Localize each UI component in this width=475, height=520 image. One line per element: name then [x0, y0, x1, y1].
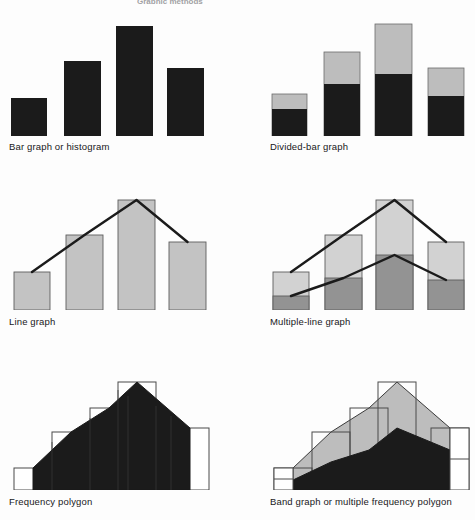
caption-band-graph: Band graph or multiple frequency polygon: [270, 496, 452, 507]
caption-divided-bar-graph: Divided-bar graph: [270, 141, 348, 152]
bar-graph-figure: [0, 8, 237, 136]
line-graph-bar-4: [169, 242, 206, 310]
bar-4: [167, 68, 204, 136]
divided-bar-graph-figure: [265, 8, 475, 136]
panel-band-graph: Band graph or multiple frequency polygon: [265, 368, 475, 518]
stacked-bar-4-lower: [428, 96, 464, 136]
ml-bar-1-lower: [273, 296, 309, 310]
caption-bar-graph: Bar graph or histogram: [9, 141, 109, 152]
panel-frequency-polygon: Frequency polygon: [0, 368, 237, 518]
ml-bar-4-lower: [428, 280, 464, 310]
line-graph-figure: [0, 188, 237, 310]
line-graph-bar-2: [66, 235, 103, 310]
frequency-polygon-figure: [0, 368, 237, 490]
stacked-bar-2-lower: [324, 84, 360, 136]
line-series-total: [291, 200, 446, 272]
panel-bar-graph: Bar graph or histogram: [0, 8, 237, 158]
panel-multiple-line-graph: Multiple-line graph: [265, 188, 475, 338]
panel-divided-bar-graph: Divided-bar graph: [265, 8, 475, 158]
caption-multiple-line-graph: Multiple-line graph: [270, 316, 350, 327]
line-series-trend: [32, 200, 188, 272]
caption-line-graph: Line graph: [9, 316, 55, 327]
line-graph-bar-3: [118, 200, 155, 310]
stacked-bar-3-lower: [375, 74, 412, 136]
band-graph-figure: [265, 368, 475, 490]
line-series-component: [291, 255, 446, 296]
caption-frequency-polygon: Frequency polygon: [9, 496, 92, 507]
multiple-line-graph-figure: [265, 188, 475, 310]
page-title-fragment: Graphic methods: [137, 0, 217, 4]
panel-line-graph: Line graph: [0, 188, 237, 338]
figure-canvas: Graphic methods Bar graph or histogram D…: [0, 0, 475, 520]
bar-3: [116, 26, 153, 136]
bar-2: [64, 61, 101, 136]
bar-1: [11, 98, 47, 136]
ml-bar-3-lower: [376, 255, 413, 310]
line-graph-bar-1: [14, 272, 50, 310]
stacked-bar-1-lower: [272, 109, 307, 136]
